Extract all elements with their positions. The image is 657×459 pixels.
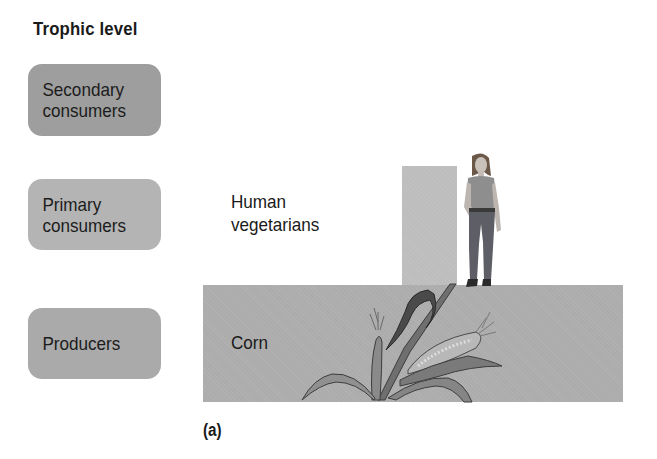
label-line: Human xyxy=(231,190,319,213)
level-box-primary-consumers: Primary consumers xyxy=(28,179,161,250)
level-label-line: Primary xyxy=(42,194,126,215)
primary-consumers-label: Human vegetarians xyxy=(231,190,319,236)
diagram-title: Trophic level xyxy=(33,18,138,40)
panel-label: (a) xyxy=(203,420,222,441)
level-label-line: Secondary xyxy=(42,79,126,100)
primary-consumers-energy-bar xyxy=(402,166,457,285)
corn-plant-icon xyxy=(300,282,500,404)
human-figure-icon xyxy=(458,152,508,288)
level-label-line: consumers xyxy=(42,215,126,236)
producers-label: Corn xyxy=(231,331,268,354)
level-box-secondary-consumers: Secondary consumers xyxy=(28,64,161,136)
label-line: vegetarians xyxy=(231,213,319,236)
level-label-line: consumers xyxy=(42,100,126,121)
level-label: Producers xyxy=(28,333,120,354)
level-box-producers: Producers xyxy=(28,308,161,379)
